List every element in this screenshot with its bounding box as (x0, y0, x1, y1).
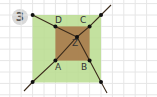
label-d: D (55, 15, 62, 25)
point-outer-topleft (31, 13, 35, 17)
label-z: Z (72, 38, 78, 48)
point-b (88, 59, 92, 63)
diagram-canvas: D C Z A B (0, 0, 157, 97)
label-b: B (81, 62, 87, 72)
point-d (53, 24, 57, 28)
point-c (88, 24, 92, 28)
point-outer-bottomright (99, 80, 103, 84)
label-a: A (55, 62, 62, 72)
label-c: C (80, 15, 86, 25)
geometry-diagram: 3 (0, 0, 157, 97)
point-outer-topright (99, 13, 103, 17)
point-outer-bottomleft (31, 80, 35, 84)
